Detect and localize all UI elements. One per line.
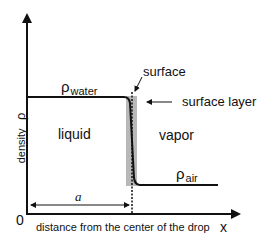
rho-symbol: ρ bbox=[176, 165, 185, 182]
x-axis-symbol: x bbox=[220, 220, 227, 234]
y-axis-title: density bbox=[15, 129, 27, 164]
rho-air-subscript: air bbox=[186, 172, 198, 184]
surface-layer-label: surface layer bbox=[182, 95, 256, 108]
density-profile-diagram bbox=[0, 0, 274, 242]
rho-water-label: ρwater bbox=[61, 79, 97, 95]
rho-water-subscript: water bbox=[71, 85, 98, 97]
rho-air-label: ρair bbox=[176, 166, 198, 182]
rho-symbol: ρ bbox=[61, 78, 70, 95]
x-axis-label: distance from the center of the drop bbox=[36, 222, 210, 233]
origin-label: 0 bbox=[16, 213, 24, 227]
vapor-label: vapor bbox=[159, 128, 194, 142]
surface-pointer-arrow bbox=[135, 77, 142, 91]
y-axis-symbol: ρ bbox=[13, 113, 28, 120]
surface-label: surface bbox=[143, 65, 186, 78]
liquid-label: liquid bbox=[58, 127, 91, 141]
radius-label: a bbox=[75, 190, 82, 203]
y-axis-label: density ρ bbox=[12, 108, 28, 168]
